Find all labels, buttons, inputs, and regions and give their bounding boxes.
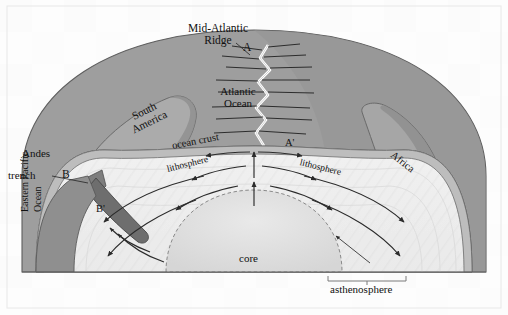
label-asthenosphere: asthenosphere <box>330 284 392 296</box>
label-point-a-prime: A' <box>285 137 294 148</box>
label-core: core <box>239 253 258 265</box>
figure-stage: Mid-Atlantic Ridge A A' Atlantic Ocean S… <box>0 0 508 315</box>
earth-cross-section-diagram <box>0 0 508 315</box>
earth-dome <box>22 30 486 285</box>
label-atlantic-ocean: Atlantic Ocean <box>205 86 271 110</box>
label-point-b-prime: B' <box>96 203 105 214</box>
label-mid-atlantic-ridge-line2: Ridge <box>170 34 266 46</box>
label-mid-atlantic-ridge: Mid-Atlantic Ridge <box>170 22 266 47</box>
label-eastern-pacific-ocean-line2: Ocean <box>33 186 44 212</box>
label-point-a: A <box>243 41 251 53</box>
label-eastern-pacific-ocean-line1: Eastern Pacific <box>20 152 31 212</box>
label-point-b: B <box>62 168 70 180</box>
label-mid-atlantic-ridge-line1: Mid-Atlantic <box>170 22 266 34</box>
label-atlantic-ocean-line2: Ocean <box>205 98 271 110</box>
